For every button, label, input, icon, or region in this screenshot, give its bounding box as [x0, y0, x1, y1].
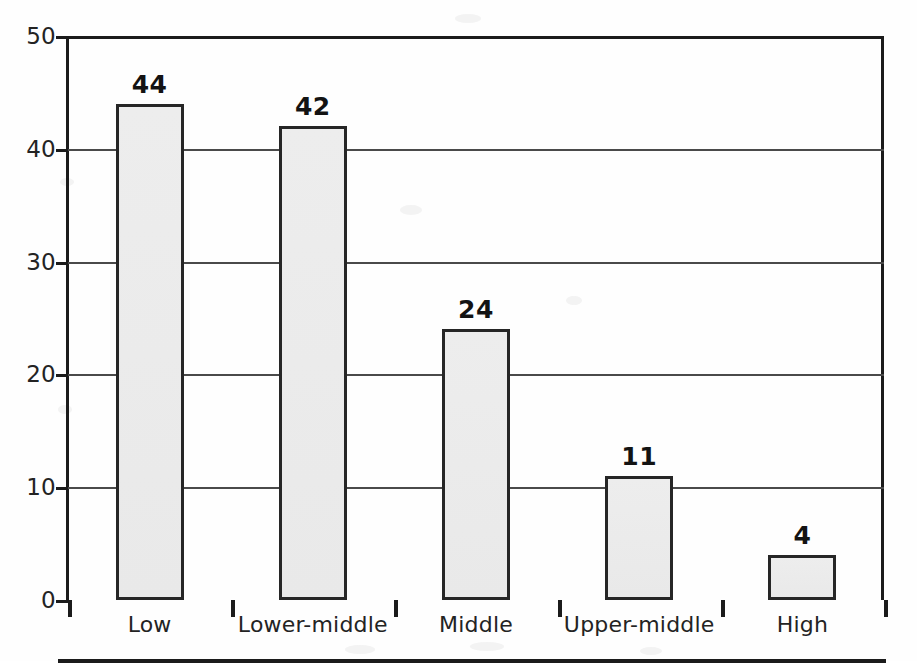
- y-axis-labels: 50 40 30 20 10 0: [0, 36, 56, 600]
- x-tick-boundary-5: [884, 600, 888, 617]
- bar-value-label-high: 4: [793, 521, 811, 550]
- y-tick-label: 20: [26, 361, 56, 387]
- bar-value-label-lower-middle: 42: [295, 92, 331, 121]
- y-tick-50: [56, 36, 68, 39]
- bar-fill: [119, 107, 181, 597]
- x-tick-boundary-1: [231, 600, 235, 617]
- x-axis-label-upper-middle: Upper-middle: [564, 612, 715, 637]
- scan-speck: [455, 14, 481, 23]
- bar-fill: [282, 129, 344, 597]
- x-axis-label-middle: Middle: [439, 612, 513, 637]
- bar-high: [768, 555, 836, 600]
- gridline-40: [68, 149, 884, 151]
- scan-speck: [640, 647, 662, 655]
- bar-lower-middle: [279, 126, 347, 600]
- x-axis-line: [58, 659, 886, 663]
- y-axis-line: [66, 36, 69, 602]
- y-tick-label: 0: [41, 587, 56, 613]
- scan-speck: [345, 645, 375, 654]
- y-tick-label: 40: [26, 136, 56, 162]
- bar-value-label-middle: 24: [458, 295, 494, 324]
- plot-top-border: [68, 36, 884, 39]
- y-tick-20: [56, 374, 68, 377]
- x-tick-boundary-3: [558, 600, 562, 617]
- bar-fill: [608, 479, 670, 597]
- plot-right-border: [881, 36, 884, 600]
- x-tick-boundary-4: [721, 600, 725, 617]
- x-tick-boundary-0: [68, 600, 72, 617]
- x-tick-boundary-2: [394, 600, 398, 617]
- y-tick-30: [56, 262, 68, 265]
- bar-value-label-upper-middle: 11: [621, 442, 657, 471]
- scan-speck: [470, 642, 504, 651]
- bar-fill: [771, 558, 833, 597]
- bar-value-label-low: 44: [132, 70, 168, 99]
- y-tick-label: 30: [26, 249, 56, 275]
- y-tick-label: 50: [26, 23, 56, 49]
- x-axis-label-high: High: [777, 612, 828, 637]
- bar-middle: [442, 329, 510, 600]
- y-tick-40: [56, 149, 68, 152]
- x-axis-label-lower-middle: Lower-middle: [238, 612, 388, 637]
- gridline-30: [68, 262, 884, 264]
- x-axis-label-low: Low: [128, 612, 172, 637]
- bar-low: [116, 104, 184, 600]
- bar-fill: [445, 332, 507, 597]
- y-tick-0: [56, 600, 68, 603]
- y-tick-10: [56, 487, 68, 490]
- bar-upper-middle: [605, 476, 673, 600]
- y-tick-label: 10: [26, 474, 56, 500]
